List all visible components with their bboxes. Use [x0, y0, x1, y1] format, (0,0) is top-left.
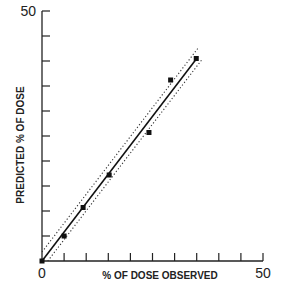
data-point: [40, 259, 45, 264]
data-point: [168, 78, 173, 83]
data-point: [81, 205, 86, 210]
chart: % OF DOSE OBSERVED PREDICTED % OF DOSE 5…: [0, 0, 285, 296]
data-point: [194, 56, 199, 61]
axes: [42, 11, 263, 261]
labels: % OF DOSE OBSERVED PREDICTED % OF DOSE 5…: [15, 3, 271, 281]
data-point: [146, 130, 151, 135]
data-point: [62, 234, 67, 239]
x-tick-label: 50: [255, 265, 271, 281]
y-tick-label: 50: [20, 3, 36, 19]
y-axis-title: PREDICTED % OF DOSE: [15, 86, 26, 204]
lower-bound-line: [48, 60, 202, 262]
x-axis-title: % OF DOSE OBSERVED: [102, 270, 217, 281]
regression-line: [42, 59, 197, 262]
lines: [42, 47, 202, 261]
ticks: [42, 11, 263, 261]
upper-bound-line: [42, 47, 199, 252]
x-tick-label: 0: [38, 265, 46, 281]
data-point: [107, 173, 112, 178]
